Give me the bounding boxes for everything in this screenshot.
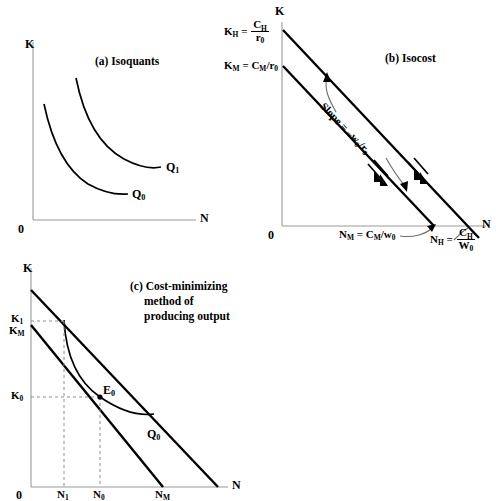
isoquant-q1-label: Q1 bbox=[166, 161, 179, 174]
equilibrium-point-label: E0 bbox=[103, 384, 115, 397]
isoquant-q0-curve-panel-c bbox=[64, 320, 154, 414]
panel-c-title-line2: method of bbox=[130, 294, 230, 309]
slope-arrow-down bbox=[386, 158, 405, 186]
n-high-intercept-label: NH = CH W0 bbox=[430, 228, 476, 253]
panel-c-tick-nm: NM bbox=[155, 489, 170, 501]
n-high-fraction: CH W0 bbox=[457, 227, 476, 252]
panel-a-isoquants bbox=[0, 0, 248, 250]
panel-b-x-axis-label: N bbox=[482, 218, 491, 231]
panel-c-tick-km: KM bbox=[9, 325, 25, 337]
parallel-marker-high bbox=[408, 158, 428, 184]
isocost-line-high bbox=[283, 30, 479, 238]
panel-b-isocost bbox=[248, 0, 496, 250]
n-mid-pointer bbox=[400, 228, 432, 237]
panel-b-y-axis-label: K bbox=[275, 5, 284, 18]
panel-a-x-axis-label: N bbox=[200, 212, 209, 225]
panel-c-title-line1: (c) Cost-minimizing bbox=[130, 279, 230, 294]
k-mid-intercept-label: KM = CM/r0 bbox=[224, 60, 278, 72]
parallel-marker-mid bbox=[368, 160, 388, 186]
k-high-intercept-label: KH = CH r0 bbox=[224, 20, 270, 45]
panel-a-y-axis-label: K bbox=[25, 38, 34, 51]
isoquant-q1-curve bbox=[76, 78, 161, 168]
panel-c-title: (c) Cost-minimizing method of producing … bbox=[130, 279, 230, 325]
equilibrium-point-dot bbox=[97, 394, 102, 399]
panel-c-tick-n0: N0 bbox=[93, 489, 105, 501]
panel-a-title: (a) Isoquants bbox=[95, 55, 159, 67]
panel-b-title: (b) Isocost bbox=[385, 52, 436, 64]
panel-c-origin-label: 0 bbox=[16, 489, 22, 501]
panel-b-origin-label: 0 bbox=[268, 229, 274, 242]
isoquant-q0-curve bbox=[44, 104, 128, 194]
isoquant-q0-label-panel-c: Q0 bbox=[147, 428, 160, 441]
economics-figure: K N 0 (a) Isoquants Q0 Q1 bbox=[0, 0, 496, 501]
panel-c-tick-n1: N1 bbox=[57, 489, 69, 501]
panel-a-origin-label: 0 bbox=[18, 223, 24, 236]
isoquant-q0-label: Q0 bbox=[132, 188, 145, 201]
panel-c-title-line3: producing output bbox=[130, 309, 230, 324]
isocost-line-lower bbox=[31, 325, 163, 487]
n-mid-intercept-label: NM = CM/w0 bbox=[339, 229, 396, 241]
k-high-fraction: CH r0 bbox=[251, 19, 269, 44]
panel-c-x-axis-label: N bbox=[232, 479, 241, 492]
panel-c-y-axis-label: K bbox=[23, 262, 32, 275]
panel-c-tick-k0: K0 bbox=[11, 390, 23, 402]
